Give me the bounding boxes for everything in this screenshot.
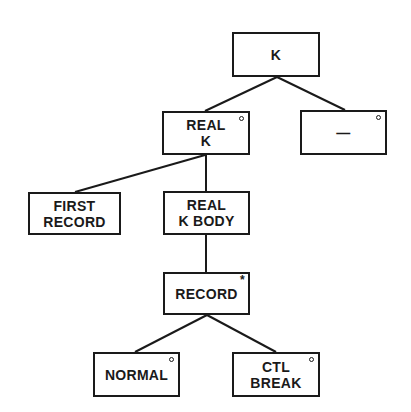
edge-k-to-dash (277, 77, 345, 110)
node-label: BREAK (250, 375, 301, 391)
node-dash: — (300, 110, 387, 155)
node-label: RECORD (175, 286, 237, 302)
selection-marker-icon (169, 357, 174, 362)
edge-record-to-ctl-break (207, 315, 276, 352)
edge-k-to-real-k (205, 77, 277, 111)
node-record: RECORD* (163, 272, 250, 315)
node-label: CTL (262, 359, 290, 375)
node-label: RECORD (43, 214, 105, 230)
iteration-marker-icon: * (240, 274, 245, 286)
selection-marker-icon (239, 116, 244, 121)
node-label: — (336, 125, 350, 141)
node-normal: NORMAL (93, 352, 180, 397)
node-label: K (271, 47, 281, 63)
node-first-record: FIRSTRECORD (28, 192, 121, 235)
structure-diagram: KREALK—FIRSTRECORDREALK BODYRECORD*NORMA… (0, 0, 411, 412)
node-real-k: REALK (162, 111, 250, 155)
selection-marker-icon (376, 115, 381, 120)
selection-marker-icon (309, 357, 314, 362)
node-label: REAL (186, 117, 225, 133)
edge-real-k-to-first-record (75, 155, 205, 192)
node-real-k-body: REALK BODY (163, 191, 250, 235)
node-label: K (201, 133, 211, 149)
node-label: K BODY (178, 213, 234, 229)
node-label: FIRST (54, 198, 96, 214)
node-label: NORMAL (105, 367, 168, 383)
node-label: REAL (187, 197, 226, 213)
node-ctl-break: CTLBREAK (232, 352, 320, 397)
node-k: K (232, 32, 320, 77)
edge-record-to-normal (135, 315, 207, 352)
